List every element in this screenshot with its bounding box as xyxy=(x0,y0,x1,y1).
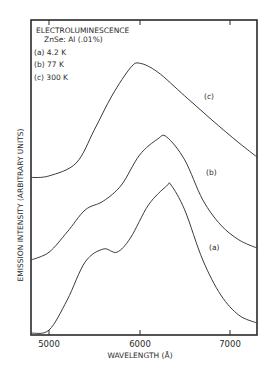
curve-a-4k xyxy=(31,183,257,334)
emission-spectra-chart: 5000 6000 7000 WAVELENGTH (Å) EMISSION I… xyxy=(0,0,271,367)
legend-item-b: (b) 77 K xyxy=(34,60,65,69)
curves xyxy=(31,63,257,334)
x-tick-label-7000: 7000 xyxy=(219,339,241,349)
x-axis-label: WAVELENGTH (Å) xyxy=(107,351,172,360)
chart-title: ELECTROLUMINESCENCE xyxy=(36,26,129,35)
plot-frame xyxy=(31,20,257,335)
curve-b-77k xyxy=(31,135,257,260)
chart-subtitle: ZnSe: Al (.01%) xyxy=(44,35,103,44)
curve-label-b: (b) xyxy=(206,168,217,177)
y-axis-label: EMISSION INTENSITY (ARBITRARY UNITS) xyxy=(16,129,25,282)
x-tick-label-5000: 5000 xyxy=(38,339,60,349)
legend: (a) 4.2 K (b) 77 K (c) 300 K xyxy=(34,48,69,82)
x-tick-label-6000: 6000 xyxy=(129,339,151,349)
curve-label-a: (a) xyxy=(209,243,220,252)
legend-item-a: (a) 4.2 K xyxy=(34,48,67,57)
legend-item-c: (c) 300 K xyxy=(34,73,69,82)
curve-label-c: (c) xyxy=(204,92,214,101)
